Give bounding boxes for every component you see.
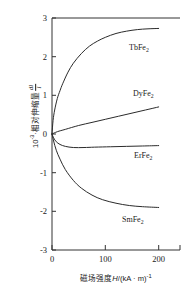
data-curves <box>52 28 159 207</box>
magnetostriction-chart-figure: 3 2 1 0 -1 -2 -3 0 100 200 TbFe2 DyFe2 E… <box>0 0 188 297</box>
y-axis-label-middle: ·相对伸缩量 <box>31 92 40 135</box>
x-axis-label: 磁场强度H/(kA · m)-1 <box>80 273 151 283</box>
y-tick-label: 3 <box>43 13 47 23</box>
x-tick-label: 0 <box>50 254 54 264</box>
series-label-dyfe2: DyFe2 <box>133 89 154 99</box>
series-label-tbfe2: TbFe2 <box>129 43 149 53</box>
y-axis-label-prefix: 10 <box>31 140 40 148</box>
y-axis-label-exponent: -3 <box>29 135 35 140</box>
series-labels: TbFe2 DyFe2 ErFe2 SmFe2 <box>122 43 154 225</box>
curve-smfe2 <box>52 134 159 207</box>
y-tick-label: -3 <box>40 245 47 255</box>
curve-dyfe2 <box>52 107 159 134</box>
y-axis-label-fraction: dll <box>28 84 44 91</box>
x-tick-label: 200 <box>152 254 165 264</box>
x-tick-label: 100 <box>99 254 112 264</box>
y-tick-label: -2 <box>40 206 47 216</box>
curve-erfe2 <box>52 134 159 148</box>
series-label-erfe2: ErFe2 <box>134 151 153 161</box>
y-axis-label: 10-3·相对伸缩量dll <box>28 56 44 176</box>
plot-frame <box>52 18 180 250</box>
x-tick-labels: 0 100 200 <box>50 254 165 264</box>
x-tickmarks <box>52 245 180 250</box>
fraction-denominator: l <box>37 84 44 91</box>
series-label-smfe2: SmFe2 <box>122 215 144 225</box>
